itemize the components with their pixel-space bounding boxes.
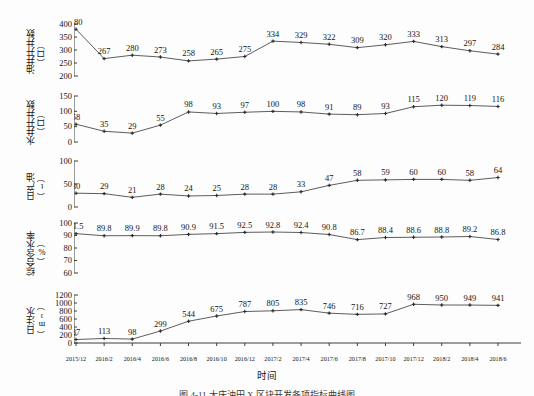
data-point-marker	[271, 39, 274, 42]
data-point-marker	[271, 110, 274, 113]
data-point-marker	[328, 311, 331, 314]
data-point-label: 88.8	[434, 225, 449, 235]
data-point-label: 47	[325, 173, 334, 183]
data-point-label: 116	[492, 94, 504, 104]
panel-water-wells-axis-unit: （口）	[38, 105, 47, 141]
y-axis-tick-label: 0	[68, 339, 72, 348]
data-point-label: 805	[267, 298, 280, 308]
data-point-marker	[243, 310, 246, 313]
y-axis-tick-label: 300	[59, 46, 72, 55]
data-point-marker	[440, 178, 443, 181]
y-axis-tick-label: 0	[68, 138, 72, 147]
data-point-marker	[384, 112, 387, 115]
panel-daily-injection-axis-title-line1: 日注水	[25, 308, 35, 335]
data-point-label: 87	[74, 327, 80, 337]
data-point-label: 273	[154, 45, 167, 55]
figure-container: 油井开井数 （口） 200250300350400 38026728027325…	[0, 0, 534, 396]
data-point-marker	[356, 179, 359, 182]
panel-oil-wells-axis-title-line1: 油井开井数	[25, 30, 35, 75]
data-point-label: 35	[100, 119, 109, 129]
panel-oil-wells-axis-unit-text: （口）	[37, 41, 47, 68]
data-point-label: 284	[492, 42, 506, 52]
data-point-marker	[496, 105, 499, 108]
data-point-label: 89.2	[462, 224, 477, 234]
y-axis-tick-label: 80	[64, 244, 73, 253]
series-line	[76, 178, 498, 198]
figure-caption: 图 4-11 大庆油田 X 区块开发各项指标曲线图	[0, 388, 534, 396]
data-point-label: 91.5	[209, 221, 224, 231]
x-axis-tick-label: 2017/12	[403, 356, 423, 362]
y-axis-tick-label: 90	[64, 231, 73, 240]
data-point-label: 29	[100, 181, 109, 191]
x-axis-label: 时间	[0, 368, 534, 382]
data-point-marker	[496, 304, 499, 307]
data-point-label: 90.8	[322, 222, 337, 232]
data-point-marker	[102, 337, 105, 340]
data-point-label: 313	[435, 34, 448, 44]
panel-oil-wells-axis-title: 油井开井数	[26, 16, 35, 88]
panel-daily-injection-yticks: 020040060080010001200	[46, 289, 72, 355]
panel-water-wells-axis-title: 水井开井数	[26, 92, 35, 154]
data-point-marker	[187, 59, 190, 62]
data-point-label: 258	[182, 48, 195, 58]
x-axis-tick-label: 2018/6	[489, 356, 506, 362]
data-point-marker	[131, 234, 134, 237]
data-point-marker	[468, 49, 471, 52]
data-point-marker	[328, 233, 331, 236]
data-point-label: 58	[74, 112, 80, 122]
y-axis-tick-label: 200	[59, 331, 72, 340]
data-point-label: 93	[212, 101, 221, 111]
data-point-label: 329	[295, 30, 308, 40]
x-axis-tick-label: 2015/12	[66, 356, 86, 362]
data-point-label: 380	[74, 17, 82, 27]
data-point-marker	[131, 196, 134, 199]
panel-daily-oil-axis-title-line1: 日产油	[25, 174, 35, 201]
data-point-label: 267	[98, 46, 111, 56]
data-point-label: 25	[212, 183, 221, 193]
data-point-marker	[356, 313, 359, 316]
panel-daily-oil: 日产油 （t） 050100 3029212824252828334758596…	[0, 155, 534, 217]
x-axis-ticks: 2015/122016/22016/42016/62016/82016/1020…	[0, 356, 534, 368]
panel-water-cut-axis-unit: （%）	[38, 235, 47, 269]
data-point-label: 98	[128, 327, 137, 337]
data-point-marker	[215, 112, 218, 115]
data-point-label: 675	[210, 304, 223, 314]
data-point-marker	[187, 320, 190, 323]
data-point-label: 29	[128, 121, 137, 131]
data-point-marker	[243, 111, 246, 114]
panel-water-wells: 水井开井数 （口） 050100150 58352955989397100989…	[0, 90, 534, 155]
data-point-label: 98	[297, 99, 306, 109]
data-point-label: 24	[184, 183, 193, 193]
panel-daily-injection-plot: 8711398299544675787805835746716727968950…	[74, 289, 529, 355]
data-point-marker	[74, 192, 77, 195]
data-point-marker	[412, 303, 415, 306]
data-point-marker	[440, 235, 443, 238]
y-axis-tick-label: 100	[59, 219, 72, 228]
data-point-marker	[384, 236, 387, 239]
panel-water-wells-yticks: 050100150	[50, 90, 72, 155]
data-point-marker	[496, 238, 499, 241]
data-point-label: 265	[210, 47, 223, 57]
x-axis-tick-label: 2016/4	[124, 356, 141, 362]
data-point-label: 91	[325, 102, 334, 112]
panel-water-cut-axis-title-line1: 综合含水率	[25, 232, 35, 277]
data-point-marker	[215, 57, 218, 60]
data-point-label: 297	[463, 38, 476, 48]
data-point-label: 33	[297, 179, 306, 189]
panel-water-cut: 综合含水率 （%） 60708090100 91.589.889.989.890…	[0, 217, 534, 287]
y-axis-tick-label: 60	[64, 269, 73, 278]
data-point-label: 89	[353, 102, 362, 112]
y-axis-tick-label: 1200	[55, 291, 72, 300]
x-axis-tick-label: 2016/12	[235, 356, 255, 362]
data-point-marker	[299, 41, 302, 44]
x-axis-tick-label: 2016/6	[152, 356, 169, 362]
data-point-label: 119	[464, 93, 476, 103]
data-point-marker	[215, 314, 218, 317]
data-point-label: 92.5	[237, 220, 252, 230]
data-point-marker	[496, 176, 499, 179]
data-point-marker	[74, 123, 77, 126]
data-point-label: 716	[351, 302, 364, 312]
data-point-marker	[299, 190, 302, 193]
data-point-label: 90.9	[181, 222, 196, 232]
panel-daily-oil-plot: 30292128242528283347585960605864	[74, 155, 529, 217]
